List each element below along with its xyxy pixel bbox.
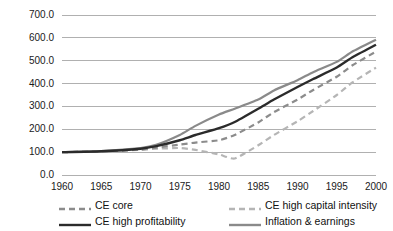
series-line — [62, 40, 376, 152]
legend-swatch-icon — [228, 200, 262, 210]
x-axis-tick-label: 1965 — [81, 182, 121, 192]
legend-label: CE core — [95, 200, 133, 211]
plot-canvas — [0, 0, 393, 196]
legend-label: CE high profitability — [95, 216, 185, 227]
x-axis-tick-label: 1980 — [199, 182, 239, 192]
y-axis-tick-label: 600.0 — [0, 33, 54, 43]
legend-swatch-icon — [58, 216, 92, 226]
legend-entry: CE high capital intensity — [228, 198, 377, 212]
plot-area: 0.0100.0200.0300.0400.0500.0600.0700.0 1… — [0, 0, 393, 196]
x-axis-tick-label: 2000 — [356, 182, 393, 192]
legend-entry: CE high profitability — [58, 214, 185, 228]
x-axis-tick-label: 1975 — [160, 182, 200, 192]
y-axis-tick-label: 100.0 — [0, 147, 54, 157]
y-axis-tick-label: 400.0 — [0, 79, 54, 89]
line-chart: 0.0100.0200.0300.0400.0500.0600.0700.0 1… — [0, 0, 393, 231]
y-axis-tick-label: 500.0 — [0, 56, 54, 66]
y-axis-tick-label: 0.0 — [0, 170, 54, 180]
x-axis-tick-label: 1995 — [317, 182, 357, 192]
x-axis-tick-label: 1985 — [238, 182, 278, 192]
y-axis-tick-label: 200.0 — [0, 124, 54, 134]
legend-entry: Inflation & earnings — [228, 214, 355, 228]
legend-entry: CE core — [58, 198, 133, 212]
legend-swatch-icon — [58, 200, 92, 210]
chart-legend: CE coreCE high capital intensityCE high … — [0, 196, 393, 231]
series-line — [62, 52, 376, 153]
y-axis-tick-label: 700.0 — [0, 10, 54, 20]
x-axis-tick-label: 1970 — [121, 182, 161, 192]
legend-label: CE high capital intensity — [265, 200, 377, 211]
legend-swatch-icon — [228, 216, 262, 226]
x-axis-tick-label: 1960 — [42, 182, 82, 192]
series-lines — [62, 40, 376, 159]
y-axis-tick-label: 300.0 — [0, 101, 54, 111]
legend-label: Inflation & earnings — [265, 216, 355, 227]
x-axis-tick-label: 1990 — [278, 182, 318, 192]
